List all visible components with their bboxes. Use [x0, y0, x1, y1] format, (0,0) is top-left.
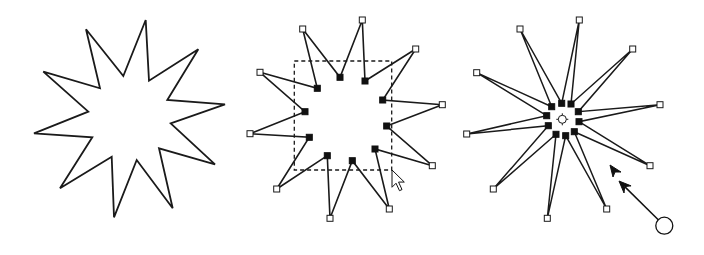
- inner-anchor-handle[interactable]: [545, 123, 551, 129]
- inner-anchor-handle[interactable]: [576, 119, 582, 125]
- center-point-icon: [556, 113, 568, 125]
- outer-anchor-handle[interactable]: [327, 215, 333, 221]
- outer-anchor-handle[interactable]: [439, 102, 445, 108]
- inner-anchor-handle[interactable]: [563, 133, 569, 139]
- outer-anchor-handle[interactable]: [300, 26, 306, 32]
- outer-anchor-handle[interactable]: [386, 206, 392, 212]
- outer-anchor-handle[interactable]: [490, 186, 496, 192]
- drag-arrow-icon: [619, 181, 673, 234]
- inner-anchor-handle[interactable]: [544, 113, 550, 119]
- outer-anchor-handle[interactable]: [464, 131, 470, 137]
- drag-origin-circle: [656, 217, 673, 234]
- outer-anchor-handle[interactable]: [413, 46, 419, 52]
- outer-anchor-handle[interactable]: [257, 69, 263, 75]
- star-editing-illustration: [0, 0, 704, 255]
- inner-anchor-handle[interactable]: [384, 123, 390, 129]
- star-plain: [34, 20, 225, 217]
- inner-anchor-handle[interactable]: [314, 85, 320, 91]
- cursor-arrow-icon: [392, 170, 404, 191]
- outer-anchor-handle[interactable]: [247, 131, 253, 137]
- inner-anchor-handle[interactable]: [362, 78, 368, 84]
- outer-anchor-handle[interactable]: [544, 215, 550, 221]
- inner-anchor-handle[interactable]: [549, 104, 555, 110]
- outer-anchor-handle[interactable]: [274, 186, 280, 192]
- inner-anchor-handle[interactable]: [559, 100, 565, 106]
- outer-anchor-handle[interactable]: [429, 163, 435, 169]
- inner-anchor-handle[interactable]: [571, 129, 577, 135]
- inner-anchor-handle[interactable]: [349, 158, 355, 164]
- inner-anchor-handle[interactable]: [306, 134, 312, 140]
- inner-anchor-handle[interactable]: [324, 153, 330, 159]
- inner-anchor-handle[interactable]: [575, 109, 581, 115]
- outer-anchor-handle[interactable]: [517, 26, 523, 32]
- inner-anchor-handle[interactable]: [553, 131, 559, 137]
- outer-anchor-handle[interactable]: [474, 70, 480, 76]
- outer-anchor-handle[interactable]: [604, 206, 610, 212]
- outer-anchor-handle[interactable]: [647, 163, 653, 169]
- inner-anchor-handle[interactable]: [337, 74, 343, 80]
- inner-anchor-handle[interactable]: [380, 97, 386, 103]
- outer-anchor-handle[interactable]: [576, 17, 582, 23]
- inner-anchor-handle[interactable]: [302, 109, 308, 115]
- outer-anchor-handle[interactable]: [359, 17, 365, 23]
- inner-anchor-handle[interactable]: [372, 146, 378, 152]
- star-scaled: [464, 17, 663, 221]
- outer-anchor-handle[interactable]: [657, 102, 663, 108]
- cursor-arrowhead-icon: [610, 165, 621, 177]
- inner-anchor-handle[interactable]: [568, 101, 574, 107]
- outer-anchor-handle[interactable]: [630, 46, 636, 52]
- diagram-canvas: [0, 0, 704, 255]
- star-outline: [34, 20, 225, 217]
- star-selected: [247, 17, 445, 221]
